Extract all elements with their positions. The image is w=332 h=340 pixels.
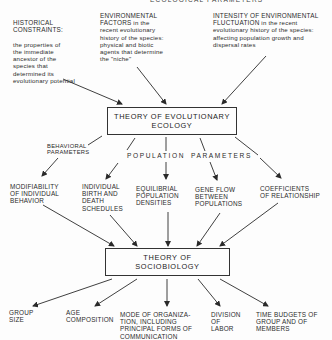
label-parameters: PARAMETERS [191, 152, 252, 159]
header-cut-text: ECOLOGICAL PARAMETERS [150, 0, 263, 3]
output-group-size: GROUP SIZE [9, 309, 33, 323]
sociobiology-diagram: ECOLOGICAL PARAMETERS HISTORICAL CONSTRA… [0, 0, 332, 340]
output-division-of-labor: DIVISION OF LABOR [211, 311, 241, 333]
param-birth-death-schedules: INDIVIDUAL BIRTH AND DEATH SCHEDULES [82, 183, 123, 212]
output-time-budgets: TIME BUDGETS OF GROUP AND OF MEMBERS [256, 311, 318, 333]
output-mode-of-organization: MODE OF ORGANIZA- TION, INCLUDING PRINCI… [120, 311, 192, 340]
param-equilibrial-densities: EQUILIBRIAL POPULATION DENSITIES [136, 185, 179, 207]
theory-sociobiology-box: THEORY OF SOCIOBIOLOGY [105, 248, 230, 276]
input-desc: in the recent evolutionary history of th… [100, 19, 164, 62]
label-population: POPULATION [127, 152, 185, 159]
input-environmental-fluctuation: INTENSITY OF ENVIRONMENTAL FLUCTUATION i… [213, 12, 331, 48]
input-title: HISTORICAL CONSTRAINTS: [13, 19, 63, 33]
input-historical-constraints: HISTORICAL CONSTRAINTS: the properties o… [13, 12, 113, 84]
output-age-composition: AGE COMPOSITION [66, 309, 114, 323]
input-environmental-factors: ENVIRONMENTAL FACTORS in the recent evol… [100, 12, 180, 62]
param-gene-flow: GENE FLOW BETWEEN POPULATIONS [195, 186, 242, 208]
input-desc: the properties of the immediate ancestor… [13, 41, 75, 84]
label-behavioral-parameters: BEHAVIORAL PARAMETERS [47, 143, 90, 155]
param-coefficients-relationship: COEFFICIENTS OF RELATIONSHIP [260, 185, 320, 199]
theory-evolutionary-ecology-box: THEORY OF EVOLUTIONARY ECOLOGY [107, 107, 237, 135]
param-modifiability: MODIFIABILITY OF INDIVIDUAL BEHAVIOR [10, 183, 59, 205]
